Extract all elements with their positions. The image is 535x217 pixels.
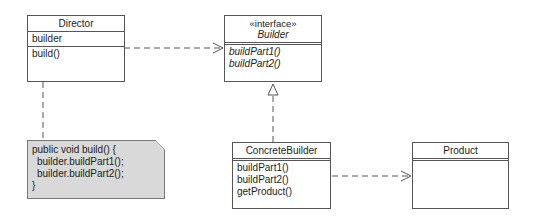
attributes-section: builder <box>28 31 124 46</box>
operation: buildPart2() <box>229 58 317 70</box>
class-name: Builder <box>225 29 321 42</box>
hollow-triangle-arrowhead-icon <box>268 84 278 95</box>
class-product[interactable]: Product <box>412 142 509 209</box>
operation: buildPart2() <box>237 174 326 186</box>
operation: buildPart1() <box>237 162 326 174</box>
note-line: builder.buildPart2(); <box>32 168 160 180</box>
class-concretebuilder[interactable]: ConcreteBuilder buildPart1() buildPart2(… <box>232 142 331 209</box>
class-director[interactable]: Director builder build() <box>27 15 125 82</box>
stereotype-label: «interface» <box>225 16 321 29</box>
code-note[interactable]: public void build() { builder.buildPart1… <box>27 140 165 199</box>
note-line: public void build() { <box>32 144 160 156</box>
attribute: builder <box>32 33 120 45</box>
operations-section: build() <box>28 46 124 61</box>
operations-section: buildPart1() buildPart2() getProduct() <box>233 158 330 199</box>
class-name: Product <box>413 143 508 158</box>
operation: buildPart1() <box>229 46 317 58</box>
operation: build() <box>32 48 120 60</box>
class-name: ConcreteBuilder <box>233 143 330 158</box>
note-line: builder.buildPart1(); <box>32 156 160 168</box>
class-builder-interface[interactable]: «interface» Builder buildPart1() buildPa… <box>224 15 322 82</box>
operations-section <box>413 158 508 203</box>
operations-section: buildPart1() buildPart2() <box>225 42 321 71</box>
note-line: } <box>32 180 160 192</box>
operation: getProduct() <box>237 186 326 198</box>
class-name: Director <box>28 16 124 31</box>
